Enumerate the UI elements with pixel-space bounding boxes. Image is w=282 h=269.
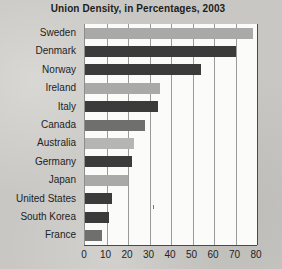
bar-france — [85, 230, 102, 241]
bar-united-states — [85, 193, 112, 204]
category-label-italy: Italy — [58, 98, 76, 116]
bar-series — [85, 24, 257, 245]
bar-australia — [85, 138, 134, 149]
category-label-germany: Germany — [35, 153, 76, 171]
bar-sweden — [85, 28, 253, 39]
bar-ireland — [85, 83, 160, 94]
category-label-sweden: Sweden — [40, 24, 76, 42]
bar-row — [85, 153, 257, 171]
bar-row — [85, 61, 257, 79]
x-tick-30: 30 — [143, 249, 154, 260]
x-tick-20: 20 — [121, 249, 132, 260]
bar-row — [85, 24, 257, 42]
category-label-south-korea: South Korea — [20, 208, 76, 226]
bar-row — [85, 190, 257, 208]
x-tick-50: 50 — [186, 249, 197, 260]
bar-south-korea — [85, 212, 109, 223]
x-tick-70: 70 — [229, 249, 240, 260]
category-label-canada: Canada — [41, 116, 76, 134]
bar-germany — [85, 156, 132, 167]
x-axis-ticks: 01020304050607080 — [84, 245, 256, 267]
bar-denmark — [85, 46, 236, 57]
category-label-australia: Australia — [37, 134, 76, 152]
chart-title: Union Density, in Percentages, 2003 — [0, 3, 276, 14]
bar-row — [85, 208, 257, 226]
x-tick-10: 10 — [100, 249, 111, 260]
bar-row — [85, 134, 257, 152]
bar-row — [85, 171, 257, 189]
bar-japan — [85, 175, 128, 186]
category-axis-labels: SwedenDenmarkNorwayIrelandItalyCanadaAus… — [0, 24, 80, 245]
category-label-ireland: Ireland — [45, 79, 76, 97]
plot-area — [84, 24, 258, 245]
bar-canada — [85, 120, 145, 131]
bar-row — [85, 226, 257, 244]
bar-row — [85, 79, 257, 97]
bar-chart: Union Density, in Percentages, 2003 Swed… — [0, 0, 282, 269]
bar-row — [85, 42, 257, 60]
category-label-japan: Japan — [49, 171, 76, 189]
category-label-denmark: Denmark — [35, 42, 76, 60]
category-label-norway: Norway — [42, 61, 76, 79]
bar-row — [85, 98, 257, 116]
x-tick-60: 60 — [207, 249, 218, 260]
x-tick-0: 0 — [81, 249, 87, 260]
bar-norway — [85, 64, 201, 75]
x-tick-80: 80 — [250, 249, 261, 260]
category-label-united-states: United States — [16, 190, 76, 208]
category-label-france: France — [45, 226, 76, 244]
bar-row — [85, 116, 257, 134]
x-tick-40: 40 — [164, 249, 175, 260]
page-speck — [153, 205, 154, 209]
bar-italy — [85, 101, 158, 112]
